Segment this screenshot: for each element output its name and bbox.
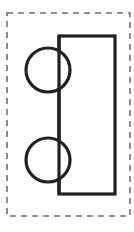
diagram-svg <box>0 0 134 232</box>
lower-circle[interactable] <box>26 138 70 182</box>
upper-circle[interactable] <box>26 48 70 92</box>
diagram-canvas: Schematic symbol diagram Body rectangle … <box>0 0 134 232</box>
